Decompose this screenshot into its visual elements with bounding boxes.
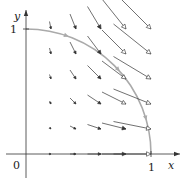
vector-arrowhead-icon: [49, 102, 51, 104]
vector-arrowhead-icon: [98, 101, 102, 105]
y-axis-arrowhead-icon: [24, 10, 28, 16]
x-tick-label: 1: [148, 161, 155, 174]
vector-arrow: [102, 30, 128, 56]
vector-field-diagram: x y 0 1 1: [0, 0, 186, 185]
x-axis-label: x: [168, 159, 175, 172]
vector-arrowhead-icon: [146, 100, 152, 106]
vector-arrowhead-icon: [49, 52, 52, 55]
vector-arrowhead-icon: [49, 27, 52, 30]
vector-arrow: [114, 57, 153, 81]
vector-arrow: [102, 0, 128, 30]
vector-arrowhead-icon: [122, 100, 127, 105]
vector-arrow: [88, 7, 103, 31]
vector-arrow: [70, 14, 77, 30]
vector-arrow: [102, 61, 127, 81]
vector-arrowhead-icon: [98, 127, 102, 131]
vector-arrow: [70, 126, 76, 130]
vector-arrow: [49, 127, 51, 129]
y-axis-label: y: [13, 10, 21, 23]
vector-field: [49, 0, 152, 156]
vector-arrow: [49, 75, 51, 80]
vector-arrow: [70, 42, 77, 55]
vector-arrow: [102, 92, 127, 106]
curve-layer: [26, 29, 151, 154]
vector-arrowhead-icon: [74, 127, 77, 130]
vector-arrowhead-icon: [74, 153, 76, 155]
axes: [6, 10, 180, 178]
vector-arrow: [49, 101, 51, 104]
vector-arrow: [88, 153, 102, 156]
vector-arrow: [88, 66, 103, 81]
vector-arrow: [114, 89, 152, 106]
vector-arrowhead-icon: [146, 75, 152, 81]
vector-arrowhead-icon: [74, 51, 78, 55]
vector-arrow: [114, 122, 152, 132]
origin-label: 0: [13, 159, 20, 172]
vector-arrow: [49, 22, 52, 30]
vector-arrow: [102, 123, 126, 131]
vector-arrowhead-icon: [98, 153, 101, 156]
vector-arrow: [70, 98, 77, 105]
vector-arrowhead-icon: [97, 25, 102, 30]
vector-arrow: [49, 153, 51, 155]
vector-arrowhead-icon: [49, 77, 51, 79]
vector-arrowhead-icon: [73, 26, 77, 30]
vector-arrow: [88, 125, 102, 131]
x-axis-arrowhead-icon: [174, 152, 180, 156]
vector-arrowhead-icon: [122, 126, 127, 131]
vector-arrow: [70, 70, 77, 80]
y-tick-label: 1: [10, 23, 17, 36]
vector-arrow: [114, 152, 152, 157]
vector-arrowhead-icon: [49, 153, 51, 155]
vector-arrow: [70, 153, 76, 155]
quarter-circle-curve: [26, 29, 151, 154]
vector-arrow: [88, 95, 102, 105]
vector-arrow: [114, 24, 153, 56]
vector-arrow: [114, 0, 153, 31]
vector-arrow: [49, 48, 52, 54]
